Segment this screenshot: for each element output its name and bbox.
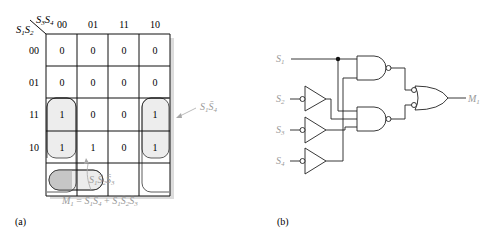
wire-s1-branch xyxy=(338,59,357,111)
row-header: 00 xyxy=(29,45,39,56)
col-header: 00 xyxy=(57,19,67,30)
row-var-label: S1S2 xyxy=(16,24,34,37)
col-var-label: S3S4 xyxy=(36,14,54,27)
figure: S3S4 S1S2 00 01 11 10 00 01 11 10 0 0 0 … xyxy=(0,0,493,240)
wire-s3bar xyxy=(326,127,357,130)
bubble-s4 xyxy=(300,159,305,164)
cell: 0 xyxy=(153,77,158,88)
nand1-bubble xyxy=(386,66,391,71)
nand2-bubble xyxy=(386,117,391,122)
cell: 0 xyxy=(91,109,96,120)
inverter-s4 xyxy=(305,148,326,174)
cell: 0 xyxy=(91,77,96,88)
cell: 0 xyxy=(91,45,96,56)
arrowhead xyxy=(176,113,182,118)
cell: 1 xyxy=(91,142,96,153)
nand-gate-1 xyxy=(357,56,386,80)
input-label-s1: S1 xyxy=(276,53,285,66)
cell: 0 xyxy=(153,45,158,56)
cell: 1 xyxy=(153,109,158,120)
wire-s4bar xyxy=(326,78,357,161)
logic-circuit: S1 S2 S3 S4 M1 xyxy=(276,53,480,228)
row-header: 11 xyxy=(29,109,39,120)
cell: 0 xyxy=(60,77,65,88)
wire-nand1-or xyxy=(391,68,412,90)
karnaugh-map: S3S4 S1S2 00 01 11 10 00 01 11 10 0 0 0 … xyxy=(15,14,218,228)
bubble-s2 xyxy=(300,97,305,102)
inverter-s2 xyxy=(305,86,326,111)
or-bubble-2 xyxy=(412,103,417,108)
group-overlap xyxy=(49,170,72,190)
col-header: 10 xyxy=(150,19,160,30)
input-label-s3: S3 xyxy=(276,124,285,137)
input-label-s2: S2 xyxy=(276,93,285,106)
row-header: 01 xyxy=(29,77,39,88)
row-header: 10 xyxy=(29,142,39,153)
caption-a: (a) xyxy=(15,216,26,228)
row-headers: 00 01 11 10 xyxy=(29,45,39,153)
cell: 1 xyxy=(153,142,158,153)
wire-nand2-or xyxy=(391,105,412,119)
wire-s2bar xyxy=(326,99,357,119)
col-headers: 00 01 11 10 xyxy=(57,19,160,30)
group1-label: S1S̄4 xyxy=(200,101,218,114)
inverter-s3 xyxy=(305,117,326,143)
bubble-s3 xyxy=(300,128,305,133)
nand-gate-2 xyxy=(357,107,386,131)
col-header: 11 xyxy=(119,19,129,30)
caption-b: (b) xyxy=(277,216,289,228)
col-header: 01 xyxy=(88,19,98,30)
cell: 1 xyxy=(60,142,65,153)
output-label-m1: M1 xyxy=(467,93,480,106)
cell: 0 xyxy=(122,77,127,88)
input-label-s4: S4 xyxy=(276,155,285,168)
junction-dot xyxy=(336,57,340,61)
or-bubble-1 xyxy=(412,88,417,93)
cell: 0 xyxy=(122,142,127,153)
cell: 0 xyxy=(60,45,65,56)
cell: 0 xyxy=(122,109,127,120)
cell: 1 xyxy=(60,109,65,120)
cell: 0 xyxy=(122,45,127,56)
or-gate xyxy=(415,86,448,110)
